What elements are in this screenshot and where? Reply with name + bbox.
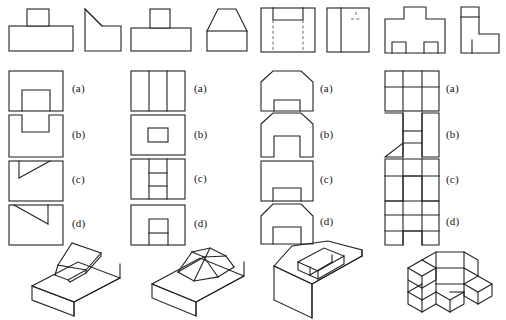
problem-column-2: (a) (b) (c) <box>126 0 252 320</box>
option-label-3-b: (b) <box>320 128 333 140</box>
option-label-1-b: (b) <box>72 128 85 140</box>
option-label-4-b: (b) <box>446 128 459 140</box>
isometric-figure-4 <box>374 240 500 320</box>
option-label-2-d: (d) <box>194 217 207 229</box>
option-1-a-figure[interactable] <box>8 70 64 112</box>
option-label-1-a: (a) <box>72 82 85 94</box>
option-label-3-c: (c) <box>320 173 333 185</box>
option-1-c-figure[interactable] <box>8 160 64 202</box>
option-label-2-c: (c) <box>194 172 207 184</box>
given-view-side-4 <box>458 6 500 54</box>
given-view-side-3 <box>326 7 370 53</box>
option-3-a-figure[interactable] <box>260 70 314 112</box>
option-label-3-d: (d) <box>320 215 333 227</box>
given-view-front-1 <box>8 8 74 52</box>
option-2-b-figure[interactable] <box>130 114 186 156</box>
isometric-figure-2 <box>148 240 252 318</box>
isometric-figure-1 <box>28 238 128 318</box>
given-view-side-2 <box>204 8 250 52</box>
option-label-2-b: (b) <box>194 128 207 140</box>
option-2-a-figure[interactable] <box>130 70 186 112</box>
option-3-b-figure[interactable] <box>260 112 314 158</box>
problem-column-1: (a) (b) (c) (d) <box>0 0 126 320</box>
option-label-1-d: (d) <box>72 217 85 229</box>
option-3-c-figure[interactable] <box>260 160 314 202</box>
worksheet-sheet: (a) (b) (c) (d) <box>0 0 506 320</box>
isometric-figure-3 <box>266 236 374 320</box>
option-label-4-d: (d) <box>446 215 459 227</box>
option-label-2-a: (a) <box>194 82 207 94</box>
given-view-side-1 <box>84 8 122 52</box>
given-view-front-3 <box>260 7 316 53</box>
option-label-1-c: (c) <box>72 173 85 185</box>
option-4-a-figure[interactable] <box>384 70 440 112</box>
option-4-c-figure[interactable] <box>384 158 440 202</box>
problem-column-4: (a) (b) (c) <box>378 0 504 320</box>
option-label-4-a: (a) <box>446 82 459 94</box>
option-4-b-figure[interactable] <box>384 112 440 158</box>
option-2-c-figure[interactable] <box>130 158 186 200</box>
given-view-front-2 <box>130 8 192 52</box>
problem-column-3: (a) (b) (c) (d) <box>252 0 378 320</box>
given-view-front-4 <box>384 6 446 54</box>
option-1-b-figure[interactable] <box>8 114 64 158</box>
option-label-4-c: (c) <box>446 173 459 185</box>
option-label-3-a: (a) <box>320 82 333 94</box>
